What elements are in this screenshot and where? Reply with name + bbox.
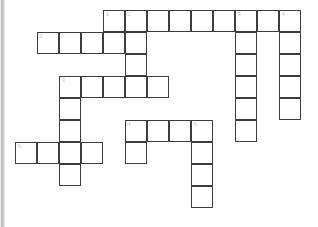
cell-number-label: 5: [194, 121, 197, 128]
crossword-cell[interactable]: [235, 54, 257, 76]
crossword-cell[interactable]: [279, 98, 301, 120]
crossword-cell[interactable]: [81, 32, 103, 54]
crossword-cell[interactable]: [169, 10, 191, 32]
crossword-cell[interactable]: [37, 142, 59, 164]
crossword-cell[interactable]: 4: [279, 10, 301, 32]
crossword-cell[interactable]: [235, 32, 257, 54]
crossword-cell[interactable]: [81, 76, 103, 98]
crossword-cell[interactable]: [59, 164, 81, 186]
crossword-cell[interactable]: [59, 142, 81, 164]
crossword-cell[interactable]: [147, 120, 169, 142]
crossword-cell[interactable]: [125, 32, 147, 54]
crossword-cell[interactable]: [59, 32, 81, 54]
crossword-cell[interactable]: [235, 98, 257, 120]
crossword-cell[interactable]: 4: [125, 120, 147, 142]
crossword-cell[interactable]: 5: [191, 120, 213, 142]
crossword-cell[interactable]: 3: [59, 76, 81, 98]
crossword-cell[interactable]: [59, 120, 81, 142]
crossword-cell[interactable]: [103, 32, 125, 54]
cell-number-label: 1: [106, 11, 109, 18]
crossword-cell[interactable]: [125, 76, 147, 98]
crossword-cell[interactable]: [235, 76, 257, 98]
cell-number-label: 4: [282, 11, 285, 18]
crossword-cell[interactable]: [59, 98, 81, 120]
cell-number-label: 2: [128, 11, 131, 18]
crossword-cell[interactable]: [279, 76, 301, 98]
crossword-cell[interactable]: [147, 10, 169, 32]
crossword-cell[interactable]: 5: [15, 142, 37, 164]
crossword-screenshot: 123423455: [0, 0, 318, 227]
crossword-cell[interactable]: [191, 142, 213, 164]
crossword-cell[interactable]: [191, 164, 213, 186]
cell-number-label: 5: [18, 143, 21, 150]
crossword-cell[interactable]: [169, 120, 191, 142]
crossword-cell[interactable]: [191, 10, 213, 32]
crossword-grid[interactable]: 123423455: [0, 0, 318, 227]
cell-number-label: 3: [62, 77, 65, 84]
crossword-cell[interactable]: 3: [235, 10, 257, 32]
crossword-cell[interactable]: [103, 76, 125, 98]
crossword-cell[interactable]: [81, 142, 103, 164]
cell-number-label: 2: [40, 33, 43, 40]
crossword-cell[interactable]: 2: [37, 32, 59, 54]
cell-number-label: 3: [238, 11, 241, 18]
crossword-cell[interactable]: [279, 32, 301, 54]
crossword-cell[interactable]: [279, 54, 301, 76]
crossword-cell[interactable]: [257, 10, 279, 32]
crossword-cell[interactable]: [235, 120, 257, 142]
cell-number-label: 4: [128, 121, 131, 128]
crossword-cell[interactable]: 2: [125, 10, 147, 32]
crossword-cell[interactable]: 1: [103, 10, 125, 32]
crossword-cell[interactable]: [125, 54, 147, 76]
crossword-cell[interactable]: [147, 76, 169, 98]
crossword-cell[interactable]: [125, 142, 147, 164]
crossword-cell[interactable]: [191, 186, 213, 208]
crossword-cell[interactable]: [213, 10, 235, 32]
